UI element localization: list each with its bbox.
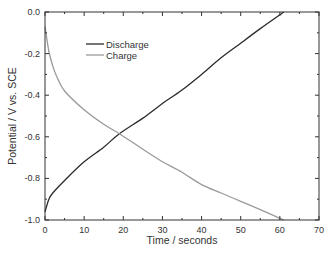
x-tick-label: 70 [314, 225, 324, 235]
y-tick-label: -0.4 [24, 90, 40, 100]
x-tick-label: 20 [118, 225, 128, 235]
series-discharge-line [45, 12, 284, 212]
y-axis-ticks: 0.0-0.2-0.4-0.6-0.8-1.0 [24, 7, 319, 225]
x-tick-label: 10 [79, 225, 89, 235]
x-tick-label: 50 [236, 225, 246, 235]
x-tick-label: 0 [42, 225, 47, 235]
y-axis-title: Potential / V vs. SCE [6, 67, 18, 164]
x-axis-ticks: 010203040506070 [42, 12, 324, 235]
y-tick-label: -0.2 [24, 49, 40, 59]
x-tick-label: 60 [275, 225, 285, 235]
y-tick-label: 0.0 [27, 7, 40, 17]
y-tick-label: -0.6 [24, 132, 40, 142]
plot-frame [45, 12, 319, 220]
legend-label-discharge: Discharge [106, 39, 149, 50]
series-charge-line [45, 27, 284, 220]
axes [45, 12, 319, 220]
y-tick-label: -1.0 [24, 215, 40, 225]
legend: DischargeCharge [86, 39, 149, 61]
line-chart: 010203040506070 0.0-0.2-0.4-0.6-0.8-1.0 … [0, 0, 332, 257]
series-layer [45, 12, 284, 220]
x-axis-title: Time / seconds [147, 234, 218, 246]
y-tick-label: -0.8 [24, 173, 40, 183]
legend-label-charge: Charge [106, 50, 137, 61]
